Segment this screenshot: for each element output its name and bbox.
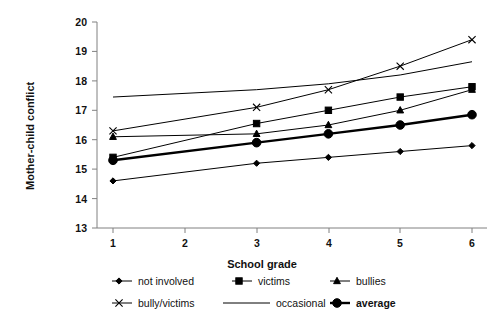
legend-item-not-involved[interactable]: not involved <box>112 275 194 287</box>
data-point-square <box>325 107 331 113</box>
series-not-involved <box>110 143 475 185</box>
legend-label: bully/victims <box>138 297 195 309</box>
series-line <box>113 90 472 137</box>
x-tick-label: 5 <box>397 237 403 249</box>
data-point-circle <box>468 110 477 119</box>
series-occasional <box>113 62 472 97</box>
data-point-square <box>236 278 242 284</box>
data-point-diamond <box>325 154 331 160</box>
x-tick-label: 1 <box>110 237 116 249</box>
y-tick-labels: 20 19 18 17 16 15 14 13 <box>75 16 87 234</box>
data-point-diamond <box>397 148 403 154</box>
data-point-circle <box>333 299 342 308</box>
data-point-diamond <box>116 278 122 284</box>
y-tick-label: 18 <box>75 75 87 87</box>
data-point-square <box>253 120 259 126</box>
series-layer <box>109 36 477 184</box>
legend-label: occasional <box>276 297 326 309</box>
y-tick-label: 16 <box>75 134 87 146</box>
y-axis-ticks <box>92 22 97 228</box>
data-point-triangle <box>334 277 341 283</box>
chart-legend: not involvedvictimsbulliesbully/victimso… <box>112 275 396 309</box>
legend-label: victims <box>258 275 290 287</box>
y-tick-label: 13 <box>75 222 87 234</box>
data-point-circle <box>252 138 261 147</box>
y-tick-label: 19 <box>75 45 87 57</box>
x-axis-ticks <box>113 228 472 233</box>
data-point-diamond <box>110 178 116 184</box>
legend-label: bullies <box>356 275 386 287</box>
data-point-diamond <box>254 160 260 166</box>
data-point-circle <box>396 121 405 130</box>
x-tick-label: 3 <box>254 237 260 249</box>
x-tick-labels: 1 2 3 4 5 6 <box>110 237 475 249</box>
series-line <box>113 115 472 161</box>
x-tick-label: 4 <box>326 237 332 249</box>
legend-label: not involved <box>138 275 194 287</box>
y-tick-label: 15 <box>75 163 87 175</box>
legend-item-bully-victims[interactable]: bully/victims <box>112 297 195 309</box>
series-line <box>113 62 472 97</box>
series-bully-victims <box>109 36 475 134</box>
series-line <box>113 146 472 181</box>
data-point-circle <box>324 130 333 139</box>
chart-figure: Mother-child conflict 20 19 18 17 16 15 … <box>0 0 503 328</box>
x-tick-label: 6 <box>469 237 475 249</box>
x-tick-label: 2 <box>182 237 188 249</box>
legend-item-occasional[interactable]: occasional <box>223 297 326 309</box>
data-point-square <box>397 94 403 100</box>
y-tick-label: 20 <box>75 16 87 28</box>
series-average <box>109 110 477 164</box>
legend-item-bullies[interactable]: bullies <box>330 275 386 287</box>
legend-label: average <box>356 297 396 309</box>
x-axis-title: School grade <box>227 258 297 270</box>
line-chart: Mother-child conflict 20 19 18 17 16 15 … <box>0 0 503 328</box>
y-tick-label: 14 <box>75 193 87 205</box>
data-point-x <box>325 86 332 93</box>
data-point-diamond <box>469 143 475 149</box>
legend-item-average[interactable]: average <box>330 297 396 309</box>
legend-item-victims[interactable]: victims <box>232 275 290 287</box>
y-tick-label: 17 <box>75 104 87 116</box>
data-point-x <box>468 36 475 43</box>
data-point-x <box>397 63 404 70</box>
data-point-circle <box>109 156 118 165</box>
y-axis-title: Mother-child conflict <box>24 82 36 191</box>
